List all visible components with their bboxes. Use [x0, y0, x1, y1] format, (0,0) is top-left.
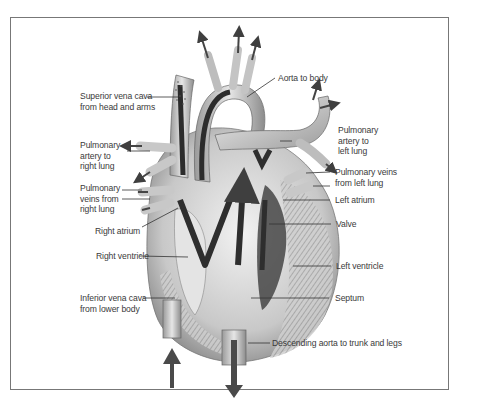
label-right-atrium: Right atrium	[95, 226, 140, 237]
label-right-ventricle: Right ventricle	[96, 251, 149, 262]
label-pulmonary-artery-left: Pulmonary artery to left lung	[338, 125, 378, 157]
label-superior-vena-cava: Superior vena cava from head and arms	[80, 91, 155, 112]
label-aorta-to-body: Aorta to body	[278, 73, 328, 84]
heart-illustration	[0, 0, 478, 413]
label-pulmonary-veins-left: Pulmonary veins from left lung	[335, 167, 397, 188]
label-left-ventricle: Left ventricle	[336, 261, 383, 272]
label-septum: Septum	[335, 293, 364, 304]
label-left-atrium: Left atrium	[335, 195, 375, 206]
label-descending-aorta: Descending aorta to trunk and legs	[272, 338, 402, 349]
label-inferior-vena-cava: Inferior vena cava from lower body	[80, 293, 147, 314]
label-pulmonary-artery-right: Pulmonary artery to right lung	[80, 140, 120, 172]
label-pulmonary-veins-right: Pulmonary veins from right lung	[80, 183, 120, 215]
label-valve: Valve	[336, 219, 356, 230]
